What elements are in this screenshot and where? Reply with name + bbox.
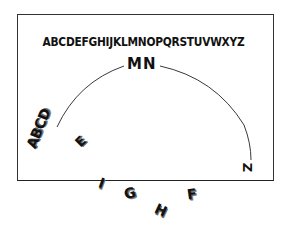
arc-right-letter: Z — [241, 163, 254, 172]
arc-top-letters: MN — [127, 57, 156, 72]
fallen-letter-f: F — [186, 186, 197, 201]
fallen-letter-g: G — [122, 185, 137, 201]
